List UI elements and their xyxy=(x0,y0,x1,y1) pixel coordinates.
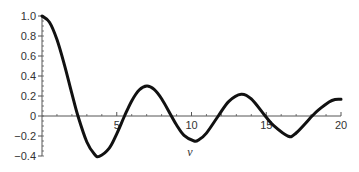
y-tick-label: 0.8 xyxy=(21,30,36,42)
y-tick-label: 1.0 xyxy=(21,10,36,22)
x-tick-label: 10 xyxy=(185,119,197,131)
y-tick-label: 0 xyxy=(30,110,36,122)
y-axis: 1.00.80.60.40.20−0.2−0.4 xyxy=(14,10,44,162)
series-line-j0 xyxy=(42,16,341,157)
y-tick-label: 0.4 xyxy=(21,70,36,82)
y-tick-label: 0.2 xyxy=(21,90,36,102)
x-axis-title: v xyxy=(187,145,193,159)
y-tick-label: −0.4 xyxy=(14,150,36,162)
y-tick-label: 0.6 xyxy=(21,50,36,62)
bessel-chart: 1.00.80.60.40.20−0.2−0.4 5101520 v xyxy=(0,0,359,172)
x-tick-label: 20 xyxy=(335,119,347,131)
y-tick-label: −0.2 xyxy=(14,130,36,142)
